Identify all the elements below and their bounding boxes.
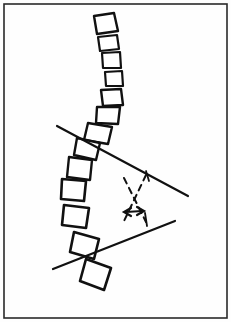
vertebra-body-t11 (62, 205, 89, 228)
vertebra-body-t4 (105, 71, 123, 86)
vertebra-body-t5 (101, 89, 123, 106)
vertebra-body-t1 (94, 13, 118, 34)
cobb-angle-arrow-shaft (126, 211, 142, 212)
vertebra-body-t2 (98, 35, 119, 51)
figure-frame (0, 0, 231, 322)
vertebra-body-t10 (61, 179, 86, 201)
spine-cobb-angle-figure (0, 0, 231, 322)
vertebra-body-t3 (102, 52, 121, 68)
vertebra-body-t6 (96, 107, 120, 124)
vertebra-body-t9 (67, 157, 92, 180)
